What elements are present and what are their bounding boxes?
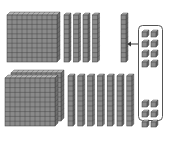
ten-rod xyxy=(83,13,90,62)
left-arrow-icon xyxy=(127,42,138,47)
unit-cube xyxy=(151,30,158,37)
unit-cube xyxy=(142,30,149,37)
ten-rod xyxy=(78,74,85,126)
base-ten-blocks-diagram xyxy=(0,0,172,150)
unit-cube xyxy=(142,60,149,67)
ten-rod xyxy=(107,74,114,126)
unit-cube xyxy=(151,50,158,57)
hundreds-flat-top xyxy=(7,12,60,62)
unit-cube xyxy=(151,120,158,127)
unit-cubes xyxy=(142,30,158,127)
hundreds-flats-bottom xyxy=(5,70,64,126)
unit-cube xyxy=(142,100,149,107)
ten-rods-bottom xyxy=(68,74,134,126)
ten-rod xyxy=(74,13,81,62)
ten-rod xyxy=(117,74,124,126)
regrouped-ten-rod xyxy=(121,13,128,62)
unit-cube xyxy=(151,60,158,67)
unit-cube xyxy=(142,110,149,117)
ten-rod xyxy=(68,74,75,126)
unit-cube xyxy=(142,40,149,47)
unit-cube xyxy=(151,40,158,47)
unit-cube xyxy=(142,120,149,127)
ten-rod xyxy=(93,13,100,62)
ten-rod xyxy=(127,74,134,126)
hundreds-flat xyxy=(7,12,60,62)
unit-cube xyxy=(142,50,149,57)
ten-rod xyxy=(88,74,95,126)
ten-rod xyxy=(121,13,128,62)
unit-cube xyxy=(151,110,158,117)
ten-rod xyxy=(64,13,71,62)
unit-cube xyxy=(151,100,158,107)
hundreds-flat xyxy=(5,75,58,126)
ten-rods-top xyxy=(64,13,100,62)
ten-rod xyxy=(97,74,104,126)
